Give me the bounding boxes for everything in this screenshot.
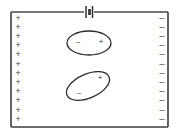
positive-charge-column: ++++++++++++ [15,12,21,124]
dipole-tilted-positive-glyph: + [98,73,103,82]
dipole-tilted-negative-glyph: – [77,88,82,97]
figure-background [0,0,178,136]
negative-charge-column: –––––––––––– [159,12,165,124]
figure-canvas: ++++++++++++ –––––––––––– –+–+ [0,0,178,136]
dipole-aligned-positive-glyph: + [99,37,104,46]
positive-charge-glyph: + [15,113,21,124]
capacitor-dipole-figure: ++++++++++++ –––––––––––– –+–+ [0,0,178,136]
negative-charge-glyph: – [159,113,165,124]
dipole-aligned-negative-glyph: – [76,37,81,46]
